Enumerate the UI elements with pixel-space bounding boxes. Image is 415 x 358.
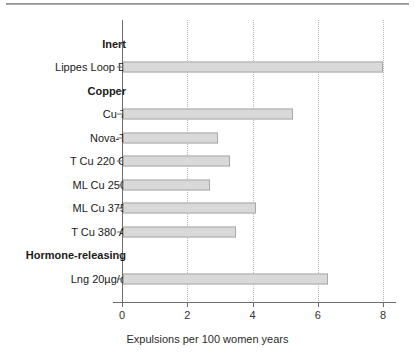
x-tick-label-8: 8 xyxy=(380,309,386,321)
x-axis-line xyxy=(113,302,396,303)
x-tick-label-6: 6 xyxy=(315,309,321,321)
y-tick xyxy=(117,255,123,256)
x-tick-label-0: 0 xyxy=(119,309,125,321)
bar xyxy=(123,179,210,190)
x-tick-8 xyxy=(383,302,384,307)
x-axis-title: Expulsions per 100 women years xyxy=(0,333,415,345)
y-tick xyxy=(117,43,123,44)
x-tick-0 xyxy=(122,302,123,307)
x-tick-label-4: 4 xyxy=(249,309,255,321)
bar xyxy=(123,156,230,167)
bar xyxy=(123,273,328,284)
x-tick-4 xyxy=(253,302,254,307)
y-tick xyxy=(117,90,123,91)
bar xyxy=(123,203,256,214)
gridline-8 xyxy=(383,20,384,303)
chart-figure: 02468 InertLippes Loop DCopperCu 7Nova-T… xyxy=(0,0,415,358)
bar xyxy=(123,226,236,237)
category-label: Lippes Loop D xyxy=(55,61,126,73)
top-divider-rule xyxy=(6,3,409,5)
group-label: Hormone-releasing xyxy=(26,249,126,261)
bar xyxy=(123,62,383,73)
x-tick-2 xyxy=(187,302,188,307)
bar xyxy=(123,109,293,120)
x-tick-label-2: 2 xyxy=(184,309,190,321)
x-tick-6 xyxy=(318,302,319,307)
bar xyxy=(123,132,218,143)
